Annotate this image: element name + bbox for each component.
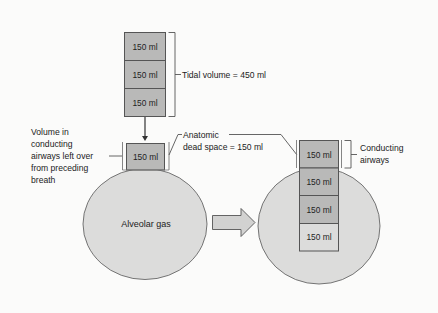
tidal-volume-label: Tidal volume = 450 ml: [182, 70, 266, 80]
leftover-volume-label: Volume in conducting airways left over f…: [31, 127, 93, 185]
tidal-box-1-label: 150 ml: [132, 42, 157, 52]
right-alveolar-box-3-label: 150 ml: [306, 232, 331, 242]
right-alveolar-box-1-label: 150 ml: [306, 177, 331, 187]
svg-text:dead space = 150 ml: dead space = 150 ml: [183, 142, 263, 152]
svg-text:Conducting: Conducting: [360, 143, 404, 153]
down-arrow-icon: [142, 117, 148, 141]
conducting-airways-label: Conducting airways: [360, 143, 404, 165]
svg-text:airways left over: airways left over: [31, 151, 93, 161]
svg-text:Anatomic: Anatomic: [183, 130, 220, 140]
conducting-airways-bracket: [345, 141, 358, 169]
transition-arrow-icon: [213, 209, 256, 237]
tidal-box-2-label: 150 ml: [132, 70, 157, 80]
left-dead-space-label: 150 ml: [133, 152, 158, 162]
svg-text:airways: airways: [360, 155, 389, 165]
dead-space-callout: Anatomic dead space = 150 ml: [183, 130, 263, 152]
svg-text:Volume in: Volume in: [31, 127, 69, 137]
tidal-box-3-label: 150 ml: [132, 98, 157, 108]
svg-text:from preceding: from preceding: [31, 163, 89, 173]
dead-space-diagram: 150 ml 150 ml 150 ml Tidal volume = 450 …: [0, 0, 438, 313]
dead-space-leader-left: [169, 135, 182, 156]
tidal-volume-bracket: [169, 33, 182, 117]
right-alveolar-box-2-label: 150 ml: [306, 205, 331, 215]
svg-text:conducting: conducting: [31, 139, 73, 149]
alveolar-gas-label: Alveolar gas: [121, 219, 171, 229]
right-conducting-label: 150 ml: [306, 150, 331, 160]
tidal-volume-stack: 150 ml 150 ml 150 ml: [125, 33, 166, 117]
svg-text:breath: breath: [31, 175, 56, 185]
